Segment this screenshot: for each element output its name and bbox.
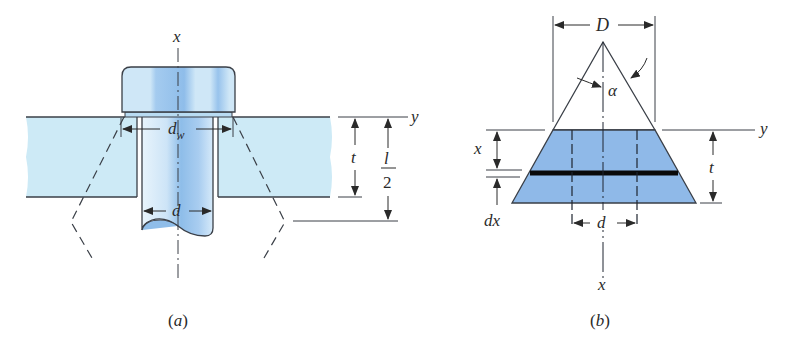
plate-right bbox=[218, 117, 332, 197]
axis-x-label-a: x bbox=[172, 27, 181, 46]
cone-apex bbox=[553, 42, 655, 130]
figure-a: x dw d y t l 2 (a) bbox=[26, 27, 419, 330]
thickness-label-a: t bbox=[351, 148, 357, 167]
half-length-numerator: l bbox=[384, 149, 389, 168]
cone-diameter-label: D bbox=[595, 15, 609, 35]
axis-y-label-a: y bbox=[409, 107, 419, 126]
angle-label: α bbox=[608, 81, 618, 100]
element-thickness-label: dx bbox=[484, 211, 501, 230]
frustum bbox=[512, 130, 696, 203]
plate-left bbox=[26, 117, 137, 197]
axis-y-label-b: y bbox=[758, 119, 768, 138]
figure-b: D α y x dx t d x (b) bbox=[473, 15, 768, 330]
element-position-label: x bbox=[473, 139, 482, 158]
half-length-denominator: 2 bbox=[383, 173, 392, 192]
axis-x-bottom-label-b: x bbox=[597, 275, 606, 294]
caption-b: (b) bbox=[590, 311, 610, 330]
thickness-label-b: t bbox=[709, 158, 715, 177]
bolted-joint-diagram: x dw d y t l 2 (a) bbox=[0, 0, 801, 345]
hole-diameter-label: d bbox=[597, 213, 606, 232]
bolt-diameter-label: d bbox=[172, 201, 181, 220]
caption-a: (a) bbox=[168, 311, 188, 330]
